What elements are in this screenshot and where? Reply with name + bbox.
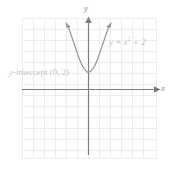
y-intercept-label: y-intercept (0, 2) bbox=[9, 68, 69, 77]
x-axis bbox=[22, 86, 161, 93]
axis-label-y: y bbox=[84, 4, 88, 13]
axis-label-x: x bbox=[161, 84, 165, 93]
y-axis-arrowhead bbox=[85, 17, 92, 24]
equation-suffix: + 2 bbox=[131, 37, 146, 47]
coordinate-plane bbox=[0, 0, 171, 169]
y-axis bbox=[85, 17, 92, 156]
x-axis-arrowhead bbox=[154, 86, 161, 93]
y-intercept-text: -intercept (0, 2) bbox=[13, 67, 69, 77]
equation-prefix: y = x bbox=[109, 37, 128, 47]
equation-label: y = x2 + 2 bbox=[109, 38, 146, 47]
graph-figure: y x y = x2 + 2 y-intercept (0, 2) bbox=[0, 0, 171, 169]
